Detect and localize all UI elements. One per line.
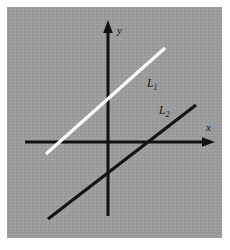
line-label-L1: L1 (146, 77, 157, 92)
line-label-L2: L2 (158, 104, 169, 119)
line-label-L1-text: L (146, 77, 153, 89)
x-axis-arrowhead (202, 137, 215, 147)
coordinate-diagram: y x L1 L2 (7, 7, 222, 238)
line-L1 (46, 48, 165, 154)
y-axis-label: y (116, 24, 122, 36)
line-label-L2-text: L (158, 104, 165, 116)
line-label-L2-subscript: 2 (165, 110, 169, 119)
line-L2 (48, 105, 196, 219)
line-label-L1-subscript: 1 (153, 83, 157, 92)
y-axis-arrowhead (103, 20, 113, 33)
x-axis-label: x (205, 121, 211, 133)
y-axis (103, 20, 113, 216)
plot-panel: y x L1 L2 (7, 7, 222, 238)
figure-root: y x L1 L2 (0, 0, 230, 250)
